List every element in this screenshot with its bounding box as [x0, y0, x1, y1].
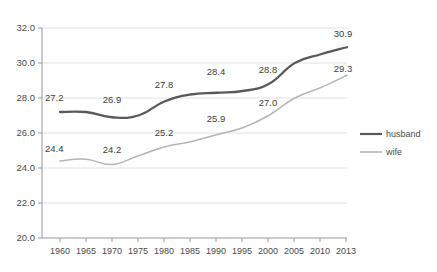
data-label-wife-2013: 29.3 — [334, 63, 353, 74]
x-label-1965: 1965 — [76, 246, 96, 256]
legend-label-husband: husband — [386, 129, 421, 139]
x-label-2000: 2000 — [258, 246, 278, 256]
x-label-1970: 1970 — [102, 246, 122, 256]
x-label-1980: 1980 — [154, 246, 174, 256]
line-chart: 32.0 30.0 28.0 26.0 24.0 22.0 20.0 1960 — [0, 0, 437, 272]
x-label-2010: 2010 — [310, 246, 330, 256]
chart-svg: 32.0 30.0 28.0 26.0 24.0 22.0 20.0 1960 — [0, 0, 437, 272]
data-label-wife-1970: 24.2 — [103, 144, 122, 155]
data-label-husband-1970: 26.9 — [103, 94, 122, 105]
y-label-22: 22.0 — [17, 197, 36, 208]
data-label-husband-2013: 30.9 — [334, 28, 353, 39]
y-label-24: 24.0 — [17, 162, 36, 173]
data-label-wife-1960: 24.4 — [45, 143, 64, 154]
x-label-1990: 1990 — [206, 246, 226, 256]
data-label-wife-2000: 27.0 — [259, 97, 278, 108]
data-label-wife-1980: 25.2 — [155, 127, 174, 138]
x-label-2013: 2013 — [336, 246, 356, 256]
data-label-husband-2000: 28.8 — [259, 64, 278, 75]
x-label-2005: 2005 — [284, 246, 304, 256]
x-label-1995: 1995 — [232, 246, 252, 256]
chart-background — [0, 0, 437, 272]
y-label-28: 28.0 — [17, 92, 36, 103]
data-label-husband-1960: 27.2 — [45, 92, 64, 103]
y-label-20: 20.0 — [17, 232, 36, 243]
y-label-26: 26.0 — [17, 127, 36, 138]
y-label-30: 30.0 — [17, 57, 36, 68]
legend-label-wife: wife — [385, 147, 402, 157]
data-label-husband-1980: 27.8 — [155, 79, 174, 90]
data-label-husband-1990: 28.4 — [207, 66, 226, 77]
y-label-32: 32.0 — [17, 22, 36, 33]
x-label-1985: 1985 — [180, 246, 200, 256]
x-label-1975: 1975 — [128, 246, 148, 256]
x-label-1960: 1960 — [50, 246, 70, 256]
data-label-wife-1990: 25.9 — [207, 113, 226, 124]
